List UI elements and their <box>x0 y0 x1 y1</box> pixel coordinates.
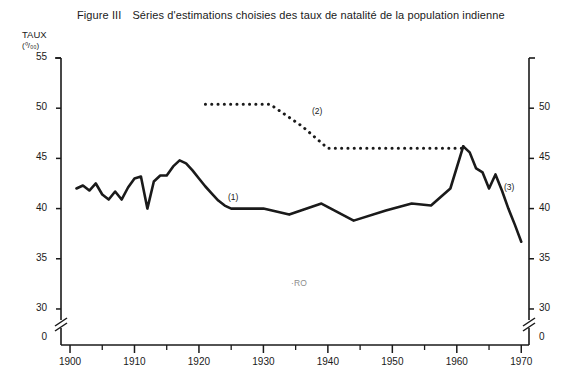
x-axis-label-1960: 1960 <box>437 356 477 367</box>
axes-layer <box>55 58 535 353</box>
figure-container: Figure IIISéries d'estimations choisies … <box>0 0 583 378</box>
x-axis-label-1940: 1940 <box>308 356 348 367</box>
y-axis-label-left-35: 35 <box>25 252 47 263</box>
x-axis-label-1900: 1900 <box>50 356 90 367</box>
data-series-2 <box>205 104 463 148</box>
y-axis-label-left-0: 0 <box>25 331 47 342</box>
series-1-tag: (1) <box>228 192 238 202</box>
y-axis-label-left-45: 45 <box>25 151 47 162</box>
data-series-3 <box>463 146 521 241</box>
x-axis-label-1920: 1920 <box>179 356 219 367</box>
y-axis-label-left-40: 40 <box>25 202 47 213</box>
y-axis-label-right-30: 30 <box>539 302 563 313</box>
y-axis-label-right-40: 40 <box>539 202 563 213</box>
y-axis-label-left-55: 55 <box>25 51 47 62</box>
series-2-tag: (2) <box>312 106 322 116</box>
y-axis-label-right-45: 45 <box>539 151 563 162</box>
y-axis-label-left-30: 30 <box>25 302 47 313</box>
y-axis-label-right-50: 50 <box>539 101 563 112</box>
x-axis-label-1950: 1950 <box>372 356 412 367</box>
series-3-tag: (3) <box>504 182 514 192</box>
x-axis-label-1910: 1910 <box>114 356 154 367</box>
data-series-1 <box>76 146 463 220</box>
series-layer <box>76 104 521 242</box>
x-axis-label-1930: 1930 <box>243 356 283 367</box>
y-axis-label-left-50: 50 <box>25 101 47 112</box>
y-axis-label-right-0: 0 <box>539 331 563 342</box>
x-axis-label-1970: 1970 <box>501 356 541 367</box>
chart-plot-svg <box>0 0 583 378</box>
ro-annotation: ·RO <box>291 278 307 288</box>
y-axis-label-right-35: 35 <box>539 252 563 263</box>
